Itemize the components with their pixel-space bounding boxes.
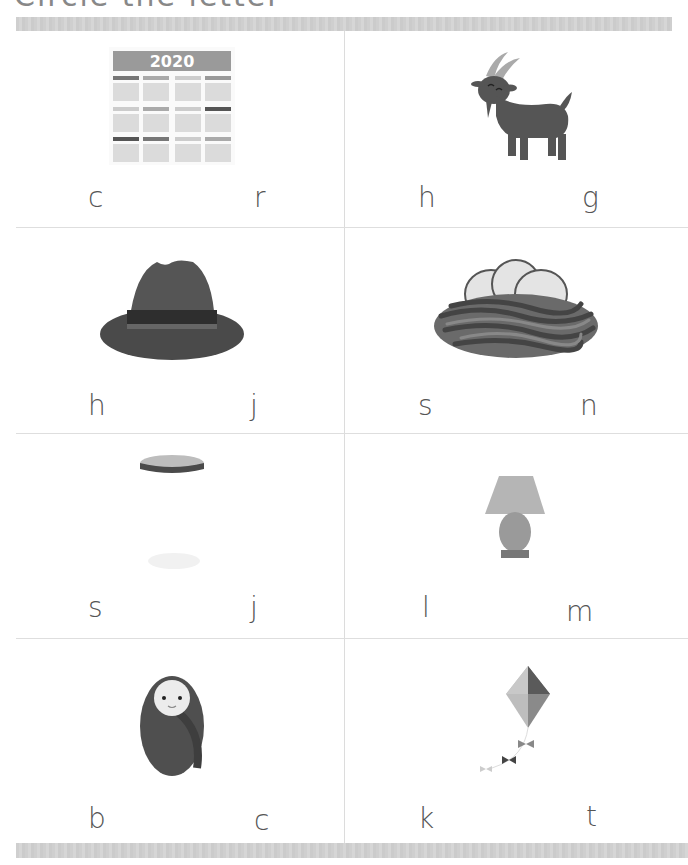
- choice-right[interactable]: m: [566, 595, 593, 628]
- choice-right[interactable]: r: [254, 181, 266, 214]
- kite-picture: [344, 662, 688, 782]
- lamp-icon: [481, 476, 551, 560]
- baby-picture: [0, 662, 344, 782]
- choice-right[interactable]: t: [586, 800, 597, 833]
- header-bar: [16, 17, 508, 31]
- footer-bar: [16, 843, 688, 858]
- cell-lamp: l m: [344, 443, 688, 646]
- svg-text:2020: 2020: [150, 52, 195, 71]
- cell-calendar: 2020 c r: [0, 31, 344, 234]
- choice-left[interactable]: h: [418, 181, 436, 214]
- choice-left[interactable]: k: [418, 802, 434, 835]
- choice-right[interactable]: g: [582, 181, 599, 214]
- choice-right[interactable]: j: [250, 389, 258, 422]
- picture-grid: 2020 c r: [0, 31, 688, 843]
- worksheet-title: Circle the letter: [14, 0, 282, 13]
- calendar-icon: 2020: [109, 47, 235, 165]
- choice-left[interactable]: b: [88, 802, 106, 835]
- nest-picture: [344, 249, 688, 369]
- hat-picture: [0, 249, 344, 369]
- calendar-picture: 2020: [0, 41, 344, 171]
- baby-icon: [139, 668, 205, 776]
- goat-picture: [344, 41, 688, 171]
- kite-icon: [476, 662, 556, 782]
- header-bar-right: [508, 17, 672, 31]
- cell-nest: s n: [344, 237, 688, 440]
- choice-left[interactable]: s: [418, 389, 433, 422]
- choice-left[interactable]: l: [422, 591, 430, 624]
- goat-icon: [456, 46, 576, 166]
- cell-jar: s j: [0, 443, 344, 646]
- nest-icon: [431, 254, 601, 364]
- jar-picture: [0, 451, 344, 581]
- cell-hat: h j: [0, 237, 344, 440]
- lamp-picture: [344, 463, 688, 573]
- choice-left[interactable]: s: [88, 591, 103, 624]
- choice-left[interactable]: c: [88, 181, 103, 214]
- cell-kite: k t: [344, 648, 688, 851]
- cell-baby: b c: [0, 648, 344, 851]
- cell-goat: h g: [344, 31, 688, 234]
- hat-icon: [97, 254, 247, 364]
- choice-right[interactable]: j: [250, 591, 258, 624]
- choice-right[interactable]: c: [254, 804, 269, 837]
- jar-icon: [132, 451, 212, 581]
- choice-right[interactable]: n: [580, 389, 598, 422]
- choice-left[interactable]: h: [88, 389, 106, 422]
